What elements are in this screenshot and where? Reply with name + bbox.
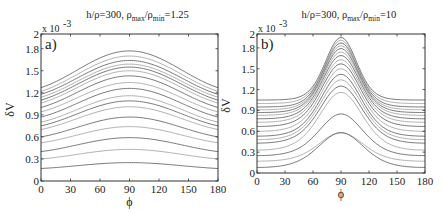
series-line-c12 <box>257 80 425 140</box>
axes-frame <box>257 34 425 173</box>
panel-a: 030609012015018000.30.60.91.21.51.82x 10… <box>3 9 227 209</box>
series-line-c15 <box>257 114 425 156</box>
y-tick-label: 1.2 <box>241 84 255 96</box>
series-line-c3 <box>257 43 425 107</box>
series-line-c16 <box>41 149 218 159</box>
x-tick-label: 0 <box>38 183 44 195</box>
y-tick-label: 2 <box>250 28 256 40</box>
series-line-c11 <box>257 74 425 136</box>
y-tick-label: 1.2 <box>25 87 39 99</box>
x-tick-label: 90 <box>124 183 136 195</box>
x-tick-label: 60 <box>95 183 107 195</box>
y-tick-label: 0.6 <box>25 131 39 143</box>
y-tick-label: 1.5 <box>25 65 39 77</box>
y-tick-label: 0 <box>250 167 256 179</box>
y-multiplier-exponent: -3 <box>63 18 71 29</box>
y-multiplier: x 10 <box>42 23 60 34</box>
x-tick-label: 0 <box>254 175 260 187</box>
y-tick-label: 2 <box>34 28 40 40</box>
x-axis-label: ϕ <box>338 187 344 201</box>
y-multiplier: x 10 <box>258 23 276 34</box>
x-tick-label: 180 <box>210 183 227 195</box>
x-tick-label: 120 <box>151 183 168 195</box>
series-line-c17 <box>41 163 218 169</box>
figure: 030609012015018000.30.60.91.21.51.82x 10… <box>0 0 445 212</box>
y-tick-label: 0.6 <box>241 125 255 137</box>
x-tick-label: 30 <box>280 175 292 187</box>
y-tick-label: 0.3 <box>25 153 39 165</box>
series-line-c14 <box>41 127 218 143</box>
x-tick-label: 120 <box>361 175 378 187</box>
chart-title: h/ρ=300, ρmax/ρmin=1.25 <box>86 9 189 23</box>
y-tick-label: 0.9 <box>241 104 255 116</box>
series-line-c2 <box>257 40 425 103</box>
series-line-c16 <box>257 133 425 162</box>
series-line-c12 <box>41 107 218 130</box>
y-axis-label: δV <box>3 102 17 117</box>
series-line-c7 <box>41 76 218 108</box>
y-tick-label: 0.3 <box>241 146 255 158</box>
x-tick-label: 150 <box>180 183 197 195</box>
y-tick-label: 0 <box>34 175 40 187</box>
x-axis-label: ϕ <box>126 195 132 209</box>
series-line-c10 <box>41 96 218 122</box>
panel-b: 030609012015018000.30.60.91.21.51.82x 10… <box>219 9 434 201</box>
y-tick-label: 1.5 <box>241 63 255 75</box>
panel-label: b) <box>261 36 274 53</box>
y-tick-label: 1.8 <box>25 43 39 55</box>
series-group <box>41 51 218 169</box>
y-multiplier-exponent: -3 <box>279 18 287 29</box>
series-line-c6 <box>257 52 425 115</box>
x-tick-label: 150 <box>389 175 406 187</box>
x-tick-label: 30 <box>65 183 77 195</box>
series-group <box>257 37 425 167</box>
x-tick-label: 180 <box>417 175 434 187</box>
x-tick-label: 60 <box>308 175 320 187</box>
panel-label: a) <box>45 36 57 53</box>
y-axis-label: δV <box>219 98 233 113</box>
x-tick-label: 90 <box>336 175 348 187</box>
y-tick-label: 1.8 <box>241 42 255 54</box>
chart-title: h/ρ=300, ρmax/ρmin=10 <box>302 9 397 23</box>
y-tick-label: 0.9 <box>25 109 39 121</box>
